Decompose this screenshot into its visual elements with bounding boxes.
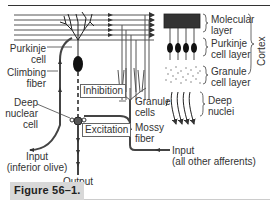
purkinje-layer-graphic xyxy=(167,43,197,53)
purkinje-cell-layer-label: Purkinje cell layer xyxy=(211,38,250,60)
input-inferior-olive-label: Input (inferior olive) xyxy=(4,151,70,173)
label-line: Purkinje xyxy=(211,38,250,49)
label-line: nuclei xyxy=(208,106,234,117)
deep-nuclear-cell-label: Deep nuclear cell xyxy=(2,97,38,130)
cortex-label: Cortex xyxy=(256,37,267,66)
granule-layer-graphic xyxy=(165,66,200,83)
excitation-label: Excitation xyxy=(82,123,131,137)
purkinje-soma xyxy=(73,56,83,72)
deep-nuclei-label: Deep nuclei xyxy=(208,95,234,117)
caption-rule xyxy=(84,199,270,200)
label-line: (inferior olive) xyxy=(4,162,70,173)
climbing-fiber-label: Climbing fiber xyxy=(2,67,46,89)
label-line: cell xyxy=(2,119,38,130)
mossy-fiber-label: Mossy fiber xyxy=(135,122,164,144)
granule-cells-label: Granule cells xyxy=(135,96,171,118)
label-line: Input xyxy=(4,151,70,162)
label-line: layer xyxy=(211,25,254,36)
figure-caption-box: Figure 56–1. xyxy=(10,182,84,200)
figure-caption: Figure 56–1. xyxy=(14,184,81,196)
granule-cell-layer-label: Granule cell layer xyxy=(211,66,250,88)
label-line: fiber xyxy=(135,133,164,144)
label-line: cells xyxy=(135,107,171,118)
purkinje-cell-label: Purkinje cell xyxy=(2,43,46,65)
molecular-layer-label: Molecular layer xyxy=(211,14,254,36)
label-line: Molecular xyxy=(211,14,254,25)
inhibition-label: Inhibition xyxy=(80,84,126,98)
label-line: cell layer xyxy=(211,49,250,60)
label-line: Purkinje xyxy=(2,43,46,54)
label-line: Granule xyxy=(135,96,171,107)
deep-nuclear-cell xyxy=(74,117,82,125)
label-line: Input xyxy=(172,145,256,156)
label-line: cell layer xyxy=(211,77,250,88)
molecular-layer-graphic xyxy=(164,14,200,44)
label-line: Deep xyxy=(208,95,234,106)
label-line: cell xyxy=(2,54,46,65)
label-line: Climbing xyxy=(2,67,46,78)
label-line: (all other afferents) xyxy=(172,156,256,167)
label-line: Mossy xyxy=(135,122,164,133)
input-other-afferents-label: Input (all other afferents) xyxy=(172,145,256,167)
label-line: Granule xyxy=(211,66,250,77)
label-line: Deep xyxy=(2,97,38,108)
label-line: fiber xyxy=(2,78,46,89)
label-line: nuclear xyxy=(2,108,38,119)
